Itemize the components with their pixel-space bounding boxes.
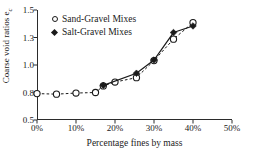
- legend-item: Sand-Gravel Mixes: [50, 13, 136, 26]
- x-axis-tick-label: 0%: [19, 123, 55, 133]
- open-circle-icon: [50, 14, 61, 25]
- x-axis-title: Percentage fines by mass: [37, 138, 232, 149]
- y-axis-tick-label: 1.0: [14, 61, 34, 70]
- x-axis-tick-label: 30%: [136, 123, 172, 133]
- y-axis-tick-label: 1.3: [14, 33, 34, 42]
- x-axis-tick-label: 50%: [214, 123, 250, 133]
- chart-figure: 0.50.81.01.31.5 Coarse void ratios ec 0%…: [0, 0, 254, 154]
- y-axis-title-subscript: c: [6, 8, 14, 11]
- y-axis-tick-label: 1.5: [14, 6, 34, 15]
- legend-item-label: Sand-Gravel Mixes: [62, 14, 136, 25]
- y-axis-title-text: Coarse void ratios e: [1, 12, 11, 84]
- y-axis-tick-label: 0.8: [14, 88, 34, 97]
- legend-item: Salt-Gravel Mixes: [50, 26, 136, 39]
- x-axis-tick-label: 20%: [97, 123, 133, 133]
- y-axis-title: Coarse void ratios ec: [1, 0, 15, 106]
- x-axis-tick-label: 10%: [58, 123, 94, 133]
- filled-diamond-icon: [50, 27, 61, 38]
- legend-item-label: Salt-Gravel Mixes: [62, 27, 132, 38]
- chart-legend: Sand-Gravel Mixes Salt-Gravel Mixes: [50, 13, 136, 39]
- x-axis-tick-label: 40%: [175, 123, 211, 133]
